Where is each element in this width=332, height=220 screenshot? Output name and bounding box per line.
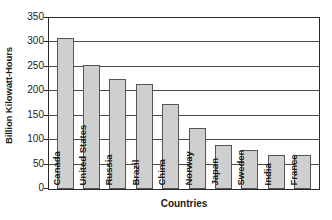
bar-series: CanadaUnited StatesRussiaBrazilChinaNorw…: [49, 18, 319, 189]
bar-label: Japan: [210, 158, 220, 185]
bar-label: Canada: [51, 151, 61, 185]
bar-label: Norway: [183, 151, 193, 185]
y-axis-tick-label: 150: [18, 110, 44, 120]
bar-label: China: [157, 159, 167, 185]
y-axis-tick-label: 100: [18, 134, 44, 144]
bar: Norway: [189, 128, 206, 189]
bar: India: [268, 155, 285, 189]
y-axis-tick-labels: 050100150200250300350: [16, 0, 44, 220]
x-axis-title: Countries: [48, 198, 320, 209]
y-axis-tick-label: 350: [18, 12, 44, 22]
bar-label: United States: [78, 124, 88, 185]
bar-label: France: [289, 154, 299, 185]
bar: France: [294, 155, 311, 189]
bar-label: Russia: [104, 154, 114, 185]
y-axis-title-text: Billion Kilowatt-Hours: [4, 46, 15, 143]
plot-area: CanadaUnited StatesRussiaBrazilChinaNorw…: [48, 17, 320, 190]
y-axis-tick-label: 50: [18, 159, 44, 169]
bar-label: Sweden: [236, 149, 246, 185]
bar-label: Brazil: [130, 159, 140, 185]
bar: Japan: [215, 145, 232, 189]
bar-label: India: [262, 163, 272, 185]
y-axis-tick-label: 0: [18, 183, 44, 193]
y-axis-tick-label: 250: [18, 61, 44, 71]
y-axis-tick-label: 300: [18, 36, 44, 46]
bar: United States: [83, 65, 100, 189]
bar: Canada: [57, 38, 74, 189]
bar-chart: Billion Kilowatt-Hours 05010015020025030…: [0, 0, 332, 220]
bar: Sweden: [241, 150, 258, 189]
bar: Brazil: [136, 84, 153, 189]
bar: China: [162, 104, 179, 190]
bar: Russia: [109, 79, 126, 189]
y-axis-tick-label: 200: [18, 85, 44, 95]
